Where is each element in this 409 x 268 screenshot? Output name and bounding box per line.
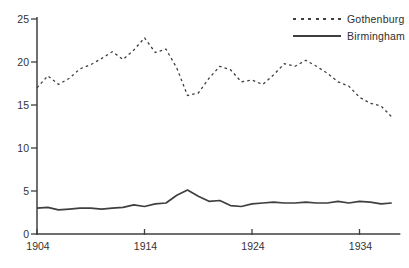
x-tick-label: 1914: [134, 240, 158, 252]
line-chart-figure: 05101520251904191419241934 Gothenburg Bi…: [0, 0, 409, 268]
y-tick-label: 25: [17, 13, 29, 25]
y-tick-label: 10: [17, 142, 29, 154]
x-tick-label: 1934: [349, 240, 373, 252]
legend-label-birmingham: Birmingham: [347, 30, 405, 42]
legend-item-gothenburg: Gothenburg: [293, 12, 405, 26]
y-tick-label: 0: [23, 228, 29, 240]
x-tick-label: 1904: [26, 240, 50, 252]
x-tick-label: 1924: [241, 240, 265, 252]
legend-item-birmingham: Birmingham: [293, 29, 405, 43]
legend: Gothenburg Birmingham: [293, 12, 405, 43]
legend-label-gothenburg: Gothenburg: [347, 13, 404, 25]
y-tick-label: 5: [23, 185, 29, 197]
y-tick-label: 20: [17, 56, 29, 68]
solid-line-swatch: [293, 35, 341, 37]
dotted-line-swatch: [293, 18, 341, 20]
y-tick-label: 15: [17, 99, 29, 111]
birmingham-series-line: [37, 190, 392, 210]
gothenburg-series-line: [37, 38, 392, 117]
